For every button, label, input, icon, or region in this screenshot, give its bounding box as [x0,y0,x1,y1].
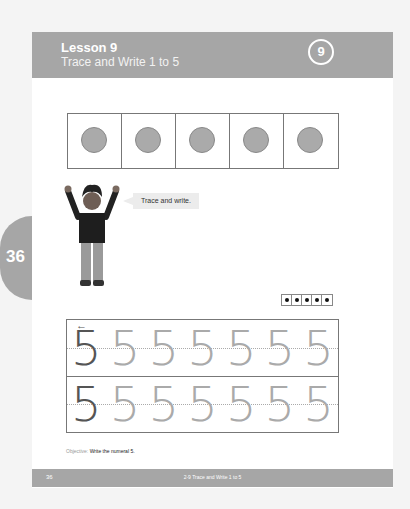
trace-numeral[interactable]: 5 [265,380,296,428]
page-tab-number: 36 [6,247,25,267]
trace-numeral[interactable]: 5 [226,380,257,428]
model-numeral: 5 [71,324,102,372]
objective: Objective: Write the numeral 5. [66,448,135,454]
dot-card [281,294,333,306]
objective-label: Objective: [66,448,88,454]
five-frame [67,113,339,169]
trace-numeral[interactable]: 5 [110,324,141,372]
lesson-title: Trace and Write 1 to 5 [61,55,179,69]
lesson-number-badge: 9 [308,39,334,65]
frame-cell [230,114,284,168]
counter-circle [243,127,269,153]
trace-numeral[interactable]: 5 [303,324,334,372]
counter-circle [135,127,161,153]
page-tab: 36 [0,216,32,300]
dot-icon [322,295,332,305]
counter-circle [81,127,107,153]
model-numeral: 5 [71,380,102,428]
trace-numeral[interactable]: 5 [265,324,296,372]
lesson-header: Lesson 9 Trace and Write 1 to 5 9 [32,32,393,78]
page-footer: 36 2-9 Trace and Write 1 to 5 [32,469,393,487]
lesson-label: Lesson 9 [61,41,117,55]
trace-numeral[interactable]: 5 [187,324,218,372]
frame-cell [68,114,122,168]
dot-icon [302,295,312,305]
trace-numeral[interactable]: 5 [110,380,141,428]
trace-numeral[interactable]: 5 [226,324,257,372]
frame-cell [176,114,230,168]
trace-numeral[interactable]: 5 [303,380,334,428]
trace-numeral[interactable]: 5 [148,380,179,428]
counter-circle [189,127,215,153]
dot-icon [292,295,302,305]
counter-circle [297,127,323,153]
tracing-row[interactable]: 5 5 5 5 5 5 5 [67,376,338,432]
speech-bubble: Trace and write. [133,193,199,209]
dot-icon [282,295,292,305]
child-illustration [64,183,120,289]
frame-cell [122,114,176,168]
objective-text: Write the numeral 5. [90,448,135,454]
footer-title: 2-9 Trace and Write 1 to 5 [32,474,393,480]
trace-numeral[interactable]: 5 [148,324,179,372]
trace-numeral[interactable]: 5 [187,380,218,428]
tracing-area[interactable]: ← 5 5 5 5 5 5 5 5 5 5 5 5 5 5 [66,319,339,433]
tracing-row[interactable]: ← 5 5 5 5 5 5 5 [67,320,338,377]
dot-icon [312,295,322,305]
frame-cell [284,114,338,168]
